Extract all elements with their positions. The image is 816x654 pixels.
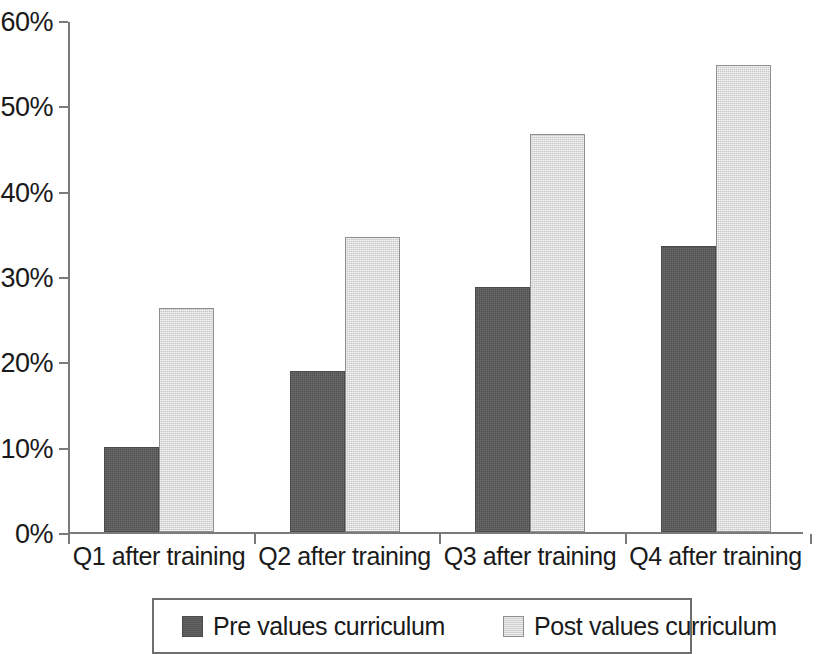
y-axis-tick-label: 30% bbox=[0, 265, 53, 292]
y-axis-tick: 60% bbox=[59, 21, 68, 23]
bar-pre-2 bbox=[290, 371, 345, 532]
chart-legend: Pre values curriculum Post values curric… bbox=[152, 598, 692, 654]
bar-pre-4 bbox=[661, 246, 716, 532]
y-axis-tick-label: 10% bbox=[0, 435, 53, 462]
bar-pre-3 bbox=[475, 287, 530, 532]
x-axis-tick bbox=[625, 534, 627, 544]
bar-post-3 bbox=[530, 134, 585, 533]
y-axis-tick: 30% bbox=[59, 277, 68, 279]
x-axis-label-4: Q4 after training bbox=[606, 544, 816, 569]
y-axis-tick: 50% bbox=[59, 106, 68, 108]
y-axis-tick-label: 60% bbox=[0, 9, 53, 36]
legend-item-post: Post values curriculum bbox=[503, 614, 777, 639]
bar-post-4 bbox=[716, 65, 771, 532]
legend-swatch-post-icon bbox=[503, 616, 524, 637]
bar-pre-1 bbox=[104, 447, 159, 532]
x-axis-tick bbox=[810, 534, 812, 544]
y-axis-tick: 10% bbox=[59, 448, 68, 450]
y-axis-tick-label: 0% bbox=[15, 521, 53, 548]
legend-swatch-pre-icon bbox=[182, 616, 203, 637]
bar-post-1 bbox=[159, 308, 214, 532]
x-axis-tick bbox=[254, 534, 256, 544]
x-axis-line bbox=[68, 532, 803, 534]
legend-item-pre: Pre values curriculum bbox=[182, 614, 445, 639]
y-axis-tick-label: 50% bbox=[0, 94, 53, 121]
y-axis-tick: 40% bbox=[59, 192, 68, 194]
y-axis-line bbox=[68, 22, 70, 534]
y-axis-tick-label: 40% bbox=[0, 179, 53, 206]
plot-area: 0%10%20%30%40%50%60% bbox=[68, 22, 803, 534]
bar-post-2 bbox=[345, 237, 400, 532]
x-axis-tick bbox=[439, 534, 441, 544]
x-axis-tick bbox=[68, 534, 70, 544]
y-axis-tick: 0% bbox=[59, 533, 68, 535]
legend-label-post: Post values curriculum bbox=[534, 614, 777, 639]
legend-label-pre: Pre values curriculum bbox=[213, 614, 445, 639]
y-axis-tick-label: 20% bbox=[0, 350, 53, 377]
y-axis-tick: 20% bbox=[59, 362, 68, 364]
